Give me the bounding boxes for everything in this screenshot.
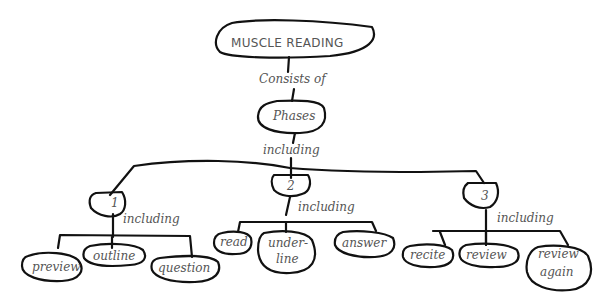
node-label: 1 xyxy=(111,196,119,210)
node-outline: outline xyxy=(83,244,145,266)
node-label: preview xyxy=(32,260,81,274)
node-review: review xyxy=(459,244,518,268)
connector xyxy=(286,197,290,215)
node-recite: recite xyxy=(403,244,453,267)
node-label: line xyxy=(276,252,299,266)
node-answer: answer xyxy=(335,231,394,257)
node-label: again xyxy=(540,265,574,279)
node-phase-1: 1 xyxy=(90,192,126,216)
node-label: MUSCLE READING xyxy=(231,36,344,50)
link-label: including xyxy=(123,212,180,226)
concept-map: MUSCLE READING Consists of Phases includ… xyxy=(0,0,612,303)
node-phases: Phases xyxy=(258,101,325,134)
connector xyxy=(288,57,289,72)
node-muscle-reading: MUSCLE READING xyxy=(216,20,374,57)
node-label: answer xyxy=(342,236,387,250)
node-underline: under- line xyxy=(258,231,315,273)
link-label: Consists of xyxy=(259,72,328,86)
node-label: read xyxy=(220,235,248,249)
node-preview: preview xyxy=(22,253,81,281)
node-label: Phases xyxy=(272,109,315,123)
node-label: recite xyxy=(410,248,445,262)
node-label: review xyxy=(466,248,508,262)
connector xyxy=(292,89,294,101)
node-question: question xyxy=(151,256,219,282)
link-label: including xyxy=(497,211,554,225)
node-read: read xyxy=(214,232,251,255)
node-label: 2 xyxy=(286,179,295,193)
connector xyxy=(293,133,295,143)
node-label: 3 xyxy=(481,189,489,203)
branch-line xyxy=(433,231,568,245)
node-label: under- xyxy=(268,236,308,250)
node-label: question xyxy=(158,261,210,275)
node-label: outline xyxy=(93,249,135,263)
node-review-again: review again xyxy=(527,246,591,291)
link-label: including xyxy=(263,143,320,157)
node-label: review xyxy=(538,247,580,261)
node-phase-3: 3 xyxy=(463,183,498,208)
node-phase-2: 2 xyxy=(272,175,310,196)
link-label: including xyxy=(298,200,355,214)
branch-line xyxy=(110,161,484,195)
